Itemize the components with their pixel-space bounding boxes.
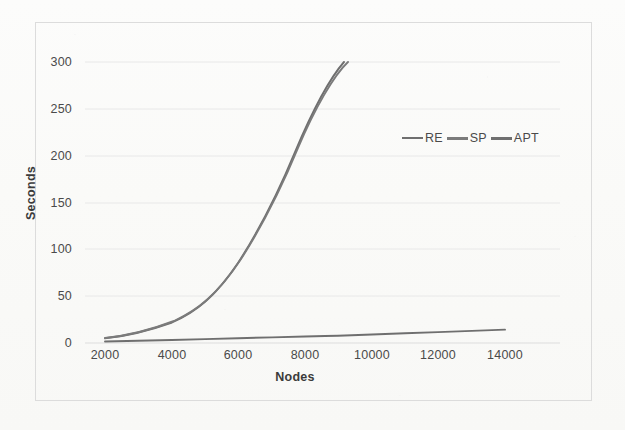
x-tick-label: 8000 (275, 348, 335, 362)
y-tick-label: 300 (38, 55, 72, 69)
x-tick-label: 10000 (342, 348, 402, 362)
y-axis-title: Seconds (24, 148, 38, 238)
y-tick-label: 200 (38, 149, 72, 163)
x-axis-title: Nodes (85, 370, 505, 384)
legend-label: APT (514, 131, 539, 145)
legend-item-sp: SP (443, 131, 487, 145)
legend-line-icon (447, 137, 468, 140)
legend-item-re: RE (398, 131, 443, 145)
chart-legend: RE SP APT (398, 131, 539, 145)
legend-item-apt: APT (487, 131, 539, 145)
y-tick-label: 0 (38, 336, 72, 350)
x-tick-label: 6000 (208, 348, 268, 362)
legend-line-icon (491, 137, 512, 140)
chart-plot-area (0, 0, 625, 430)
x-tick-label: 12000 (408, 348, 468, 362)
x-tick-label: 4000 (142, 348, 202, 362)
legend-line-icon (402, 137, 423, 139)
y-tick-label: 50 (38, 289, 72, 303)
x-tick-label: 2000 (75, 348, 135, 362)
scanned-page: 300 250 200 150 100 50 0 2000 4000 6000 … (0, 0, 625, 430)
series-line-apt (105, 330, 505, 342)
x-tick-label: 14000 (475, 348, 535, 362)
y-tick-label: 100 (38, 242, 72, 256)
series-line-sp (105, 62, 348, 338)
y-tick-label: 150 (38, 196, 72, 210)
y-tick-label: 250 (38, 102, 72, 116)
series-line-re (105, 62, 344, 338)
legend-label: RE (425, 131, 443, 145)
legend-label: SP (470, 131, 487, 145)
